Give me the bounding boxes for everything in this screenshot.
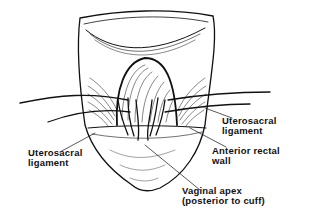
label-uterosacral-ligament-left: Uterosacral ligament [28,148,82,168]
label-line: wall [212,156,280,166]
label-line: ligament [222,126,276,136]
vault-outline [78,11,214,191]
label-vaginal-apex: Vaginal apex (posterior to cuff) [182,186,265,206]
label-line: ligament [28,158,82,168]
label-anterior-rectal-wall: Anterior rectal wall [212,146,280,166]
label-uterosacral-ligament-right: Uterosacral ligament [222,116,276,136]
label-line: (posterior to cuff) [182,196,265,206]
